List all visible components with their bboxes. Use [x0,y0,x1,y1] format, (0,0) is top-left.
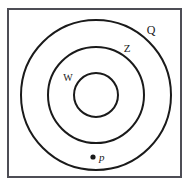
point-marker-p [90,154,95,159]
figure-container: Q Z W p [0,0,193,186]
concentric-circles-diagram: Q Z W p [0,0,193,186]
point-label-p: p [98,151,105,163]
circle-label-q: Q [147,23,156,37]
circle-label-z: Z [124,42,131,54]
circle-label-w: W [63,72,73,83]
